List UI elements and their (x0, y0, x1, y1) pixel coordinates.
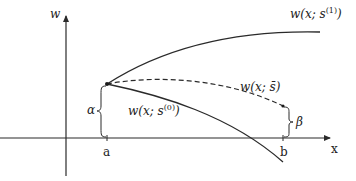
shooting-method-diagram: w x a b w(x; s(1)) w(x; s̄) w(x; s(0)) α… (0, 0, 356, 181)
lower-curve-label: w(x; s(0)) (128, 104, 180, 117)
diagram-graphics (0, 0, 356, 181)
beta-brace (284, 107, 293, 137)
start-point (105, 82, 109, 86)
alpha-label: α (87, 104, 95, 116)
middle-curve-label: w(x; s̄) (240, 81, 280, 93)
x-axis-label: x (331, 143, 338, 155)
alpha-brace (97, 86, 106, 137)
beta-label: β (296, 116, 303, 128)
a-label: a (103, 146, 110, 158)
upper-curve-label: w(x; s(1)) (290, 7, 342, 20)
b-label: b (280, 146, 288, 158)
curve-upper (107, 32, 320, 84)
y-axis-label: w (50, 8, 60, 20)
curve-lower (107, 84, 283, 162)
